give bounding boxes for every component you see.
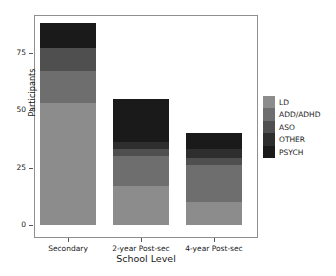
legend-swatch	[263, 96, 275, 108]
bar-segment	[113, 186, 169, 225]
bar-segment	[186, 202, 242, 225]
legend-swatch	[263, 146, 275, 158]
chart-legend: LDADD/ADHDASOOTHERPSYCH	[263, 96, 333, 158]
legend-item: ASO	[263, 121, 333, 133]
bar-segment	[40, 71, 96, 103]
y-axis-label: Participants	[28, 48, 37, 138]
bar-segment	[186, 165, 242, 202]
x-tick-mark	[214, 238, 215, 242]
bar-segment	[40, 48, 96, 71]
legend-item: ADD/ADHD	[263, 108, 333, 120]
bar-stack	[186, 133, 242, 225]
legend-label: PSYCH	[279, 148, 303, 157]
x-tick-mark	[68, 238, 69, 242]
bar-stack	[113, 99, 169, 226]
y-tick-label: 50	[16, 105, 26, 114]
bar-segment	[113, 99, 169, 143]
bar-segment	[113, 156, 169, 186]
legend-swatch	[263, 108, 275, 120]
x-tick-label: 4-year Post-sec	[168, 244, 260, 253]
bar-stack	[40, 23, 96, 225]
y-tick-label: 0	[21, 220, 26, 229]
y-tick-label: 25	[16, 163, 26, 172]
chart-figure: Participants 0255075 Secondary2-year Pos…	[0, 0, 336, 276]
y-tick-mark	[29, 225, 33, 226]
x-axis-label: School Level	[34, 253, 258, 264]
bar-segment	[186, 149, 242, 158]
bar-segment	[186, 133, 242, 149]
bar-segment	[113, 149, 169, 156]
legend-swatch	[263, 121, 275, 133]
y-tick-label: 75	[16, 48, 26, 57]
x-tick-mark	[141, 238, 142, 242]
bar-segment	[186, 158, 242, 165]
bar-segment	[40, 23, 96, 48]
legend-item: LD	[263, 96, 333, 108]
bar-segment	[113, 142, 169, 149]
y-tick-mark	[29, 168, 33, 169]
legend-label: ADD/ADHD	[279, 110, 321, 119]
legend-label: OTHER	[279, 135, 305, 144]
legend-item: OTHER	[263, 133, 333, 145]
legend-label: LD	[279, 98, 289, 107]
legend-swatch	[263, 133, 275, 145]
y-tick-mark	[29, 110, 33, 111]
bar-segment	[40, 103, 96, 225]
legend-item: PSYCH	[263, 146, 333, 158]
legend-label: ASO	[279, 123, 295, 132]
y-tick-mark	[29, 53, 33, 54]
